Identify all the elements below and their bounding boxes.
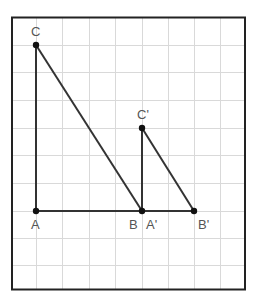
label-b-prime: B': [198, 217, 209, 232]
point-c-prime: [139, 125, 145, 131]
point-b-a-prime: [139, 208, 145, 214]
point-b-prime: [191, 208, 197, 214]
label-c: C: [31, 24, 40, 39]
point-c: [33, 42, 39, 48]
grid-lines: [11, 17, 245, 290]
label-b: B: [129, 217, 138, 232]
point-a: [33, 208, 39, 214]
label-c-prime: C': [137, 107, 149, 122]
triangle-grid-diagram: C A B A' C' B': [0, 0, 254, 307]
label-a-prime: A': [146, 217, 157, 232]
figure-border: [12, 18, 245, 290]
label-a: A: [31, 217, 40, 232]
